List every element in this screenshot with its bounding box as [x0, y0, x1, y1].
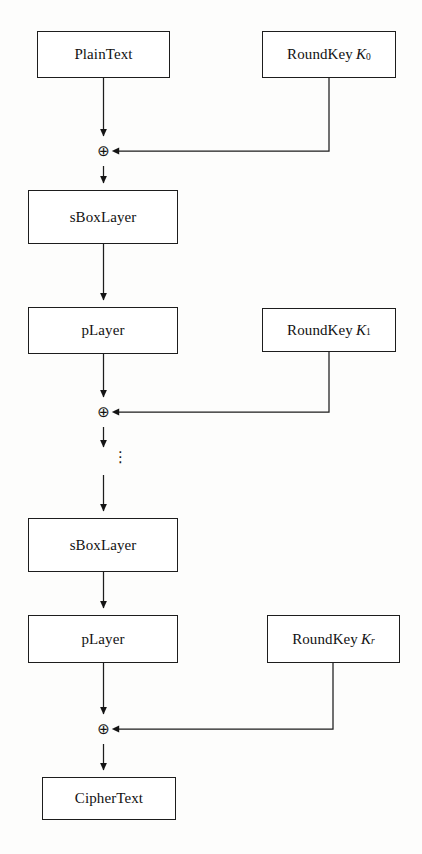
edge-roundkey-r-to-xor-bottom — [119, 663, 333, 729]
node-players-bottom[interactable]: pLayer — [28, 615, 178, 663]
node-roundkey-1-variable: K — [353, 323, 366, 338]
node-players-bottom-label: pLayer — [81, 632, 124, 647]
node-sboxlayer-bottom-label: sBoxLayer — [70, 538, 137, 553]
node-roundkey-1-label: RoundKey — [287, 323, 353, 338]
node-roundkey-0[interactable]: RoundKeyK0 — [262, 31, 396, 78]
node-roundkey-0-label: RoundKey — [287, 47, 353, 62]
node-sboxlayer-bottom[interactable]: sBoxLayer — [28, 518, 178, 572]
edge-roundkey0-to-xor-top — [119, 78, 329, 151]
node-sboxlayer-top[interactable]: sBoxLayer — [28, 190, 178, 244]
xor-operator-top: ⊕ — [96, 144, 111, 159]
node-players-top-label: pLayer — [81, 323, 124, 338]
node-roundkey-0-variable: K — [353, 47, 366, 62]
figure-caption — [0, 847, 422, 854]
connector-layer — [0, 0, 422, 854]
node-sboxlayer-top-label: sBoxLayer — [70, 210, 137, 225]
node-players-top[interactable]: pLayer — [28, 307, 178, 354]
node-roundkey-r-label: RoundKey — [292, 632, 358, 647]
vertical-ellipsis-icon: ⋮ — [113, 450, 128, 465]
node-roundkey-0-subscript: 0 — [366, 53, 371, 63]
node-plaintext[interactable]: PlainText — [37, 31, 170, 78]
node-roundkey-r-subscript: r — [371, 637, 375, 647]
node-roundkey-1[interactable]: RoundKeyK1 — [262, 308, 396, 352]
xor-operator-middle: ⊕ — [96, 405, 111, 420]
node-roundkey-r-variable: K — [358, 632, 371, 647]
figure-canvas: PlainText RoundKeyK0 sBoxLayer pLayer Ro… — [0, 0, 422, 854]
node-ciphertext[interactable]: CipherText — [42, 777, 176, 820]
xor-operator-bottom: ⊕ — [96, 722, 111, 737]
edge-roundkey1-to-xor-middle — [119, 352, 329, 412]
node-roundkey-r[interactable]: RoundKeyKr — [267, 615, 400, 663]
node-ciphertext-label: CipherText — [75, 791, 143, 806]
node-plaintext-label: PlainText — [74, 47, 132, 62]
node-roundkey-1-subscript: 1 — [366, 328, 371, 338]
